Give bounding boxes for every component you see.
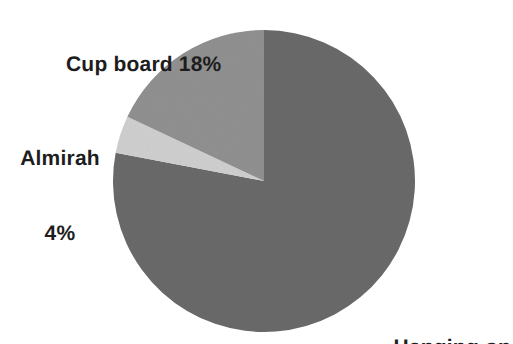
pie-label-hanging-on-wall-name: Hanging on (368, 335, 511, 344)
pie-label-hanging-on-wall: Hanging on wall 78% (368, 285, 511, 344)
pie-label-cup-board-text: Cup board 18% (66, 52, 256, 77)
pie-label-almirah-name: Almirah (2, 146, 118, 171)
pie-label-almirah: Almirah 4% (2, 96, 118, 296)
pie-label-almirah-value: 4% (2, 221, 118, 246)
pie-chart: Cup board 18% Almirah 4% Hanging on wall… (0, 0, 513, 344)
